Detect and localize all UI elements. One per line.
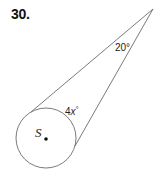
lower-tangent-line: [75, 9, 153, 146]
arc-measure-label: 4x°: [65, 105, 79, 117]
upper-tangent-line: [31, 9, 153, 112]
tangent-circle-figure: S 20° 4x°: [0, 0, 161, 175]
apex-angle-label: 20°: [115, 42, 130, 53]
circle-label: S: [35, 125, 42, 140]
center-dot: [44, 137, 48, 141]
arc-label-unit: °: [76, 105, 79, 114]
tangent-lines: [31, 9, 153, 146]
